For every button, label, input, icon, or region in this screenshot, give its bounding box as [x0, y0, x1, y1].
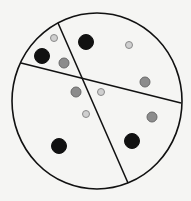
large-black-dot [79, 35, 94, 50]
small-light-dot [126, 42, 133, 49]
dividing-line-a [58, 23, 128, 183]
medium-grey-dot [140, 77, 150, 87]
dots-group [35, 35, 158, 154]
medium-grey-dot [147, 112, 157, 122]
outer-circle [12, 13, 182, 189]
small-light-dot [98, 89, 105, 96]
medium-grey-dot [59, 58, 69, 68]
large-black-dot [125, 134, 140, 149]
medium-grey-dot [71, 87, 81, 97]
large-black-dot [52, 139, 67, 154]
large-black-dot [35, 49, 50, 64]
dividing-line-b [21, 63, 181, 103]
circle-partition-diagram [0, 0, 191, 201]
small-light-dot [51, 35, 58, 42]
dividing-lines [21, 23, 181, 183]
small-light-dot [83, 111, 90, 118]
